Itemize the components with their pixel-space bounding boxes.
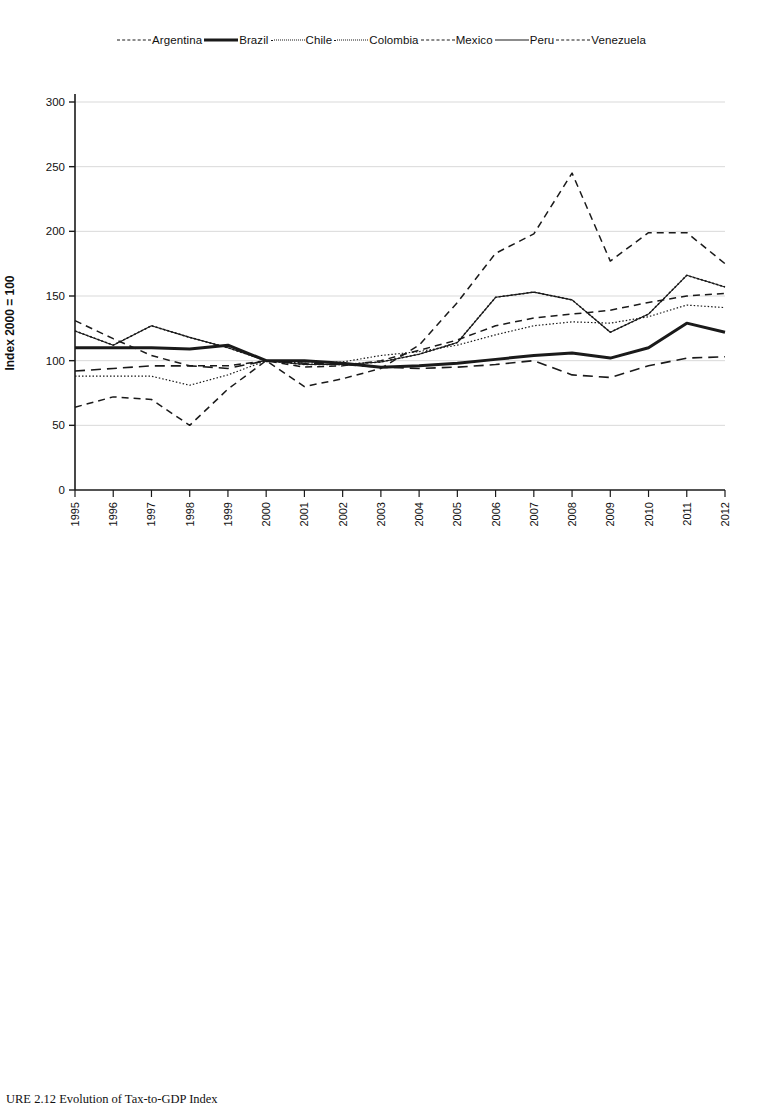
figure-caption: URE 2.12 Evolution of Tax-to-GDP Index xyxy=(6,1092,756,1107)
x-axis-tick-label: 2009 xyxy=(604,502,616,526)
legend-item-label: Colombia xyxy=(369,34,418,46)
chart-svg-south-america: 0501001502002503001995199619971998199920… xyxy=(0,88,763,558)
legend-south-america: ArgentinaBrazilChileColombiaMexicoPeruVe… xyxy=(0,34,763,46)
x-axis-tick-label: 2002 xyxy=(337,502,349,526)
chart-panel-central-america: Costa RicaGuatemalaHondurasNicaraguaPana… xyxy=(0,560,763,1075)
x-axis-tick-label: 1997 xyxy=(145,502,157,526)
x-axis-tick-label: 1999 xyxy=(222,502,234,526)
y-axis-tick-label: 50 xyxy=(52,419,65,431)
y-axis-tick-label: 200 xyxy=(46,225,65,237)
y-axis-tick-label: 150 xyxy=(46,290,65,302)
legend-item-label: Venezuela xyxy=(591,34,646,46)
legend-item-label: Mexico xyxy=(456,34,493,46)
x-axis-tick-label: 1996 xyxy=(107,502,119,526)
series-line-peru xyxy=(75,275,725,364)
figure: ArgentinaBrazilChileColombiaMexicoPeruVe… xyxy=(0,0,763,1108)
series-line-argentina xyxy=(75,293,725,367)
series-line-colombia xyxy=(75,305,725,385)
legend-line-swatch-icon xyxy=(556,35,590,46)
legend-item-label: Brazil xyxy=(239,34,268,46)
legend-line-swatch-icon xyxy=(334,35,368,46)
y-axis-label-top: Index 2000 = 100 xyxy=(3,275,17,370)
x-axis-tick-label: 2000 xyxy=(260,502,272,526)
legend-line-swatch-icon xyxy=(271,35,305,46)
legend-item-chile: Chile xyxy=(271,34,333,46)
legend-line-swatch-icon xyxy=(421,35,455,46)
legend-item-peru: Peru xyxy=(495,34,555,46)
legend-line-swatch-icon xyxy=(204,35,238,46)
chart-panel-south-america: ArgentinaBrazilChileColombiaMexicoPeruVe… xyxy=(0,0,763,560)
legend-item-label: Argentina xyxy=(152,34,202,46)
plot-area-south-america: Index 2000 = 100 05010015020025030019951… xyxy=(0,88,763,558)
y-axis-tick-label: 100 xyxy=(46,355,65,367)
series-line-venezuela xyxy=(75,173,725,425)
x-axis-tick-label: 2008 xyxy=(566,502,578,526)
legend-item-label: Chile xyxy=(306,34,333,46)
legend-line-swatch-icon xyxy=(495,35,529,46)
legend-item-venezuela: Venezuela xyxy=(556,34,646,46)
x-axis-tick-label: 2012 xyxy=(719,502,731,526)
legend-item-brazil: Brazil xyxy=(204,34,268,46)
legend-item-colombia: Colombia xyxy=(334,34,418,46)
y-axis-tick-label: 300 xyxy=(46,96,65,108)
x-axis-tick-label: 2005 xyxy=(451,502,463,526)
legend-item-mexico: Mexico xyxy=(421,34,493,46)
x-axis-tick-label: 2007 xyxy=(528,502,540,526)
x-axis-tick-label: 2010 xyxy=(643,502,655,526)
x-axis-tick-label: 2004 xyxy=(413,502,425,526)
x-axis-tick-label: 2001 xyxy=(298,502,310,526)
legend-item-argentina: Argentina xyxy=(117,34,202,46)
series-line-chile xyxy=(75,275,725,364)
y-axis-tick-label: 250 xyxy=(46,161,65,173)
x-axis-tick-label: 1995 xyxy=(69,502,81,526)
legend-line-swatch-icon xyxy=(117,35,151,46)
x-axis-tick-label: 2003 xyxy=(375,502,387,526)
series-line-mexico xyxy=(75,357,725,378)
y-axis-tick-label: 0 xyxy=(59,484,65,496)
x-axis-tick-label: 2006 xyxy=(490,502,502,526)
x-axis-tick-label: 1998 xyxy=(184,502,196,526)
x-axis-tick-label: 2011 xyxy=(681,502,693,526)
legend-item-label: Peru xyxy=(530,34,555,46)
